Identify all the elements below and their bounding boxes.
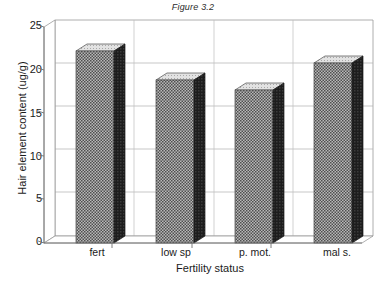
x-tick-p-mot: p. mot. [226, 246, 284, 258]
y-axis-ticks [38, 25, 44, 243]
bar-fert[interactable] [76, 44, 125, 243]
left-depth-wall [44, 20, 55, 243]
x-axis-title: Fertility status [45, 262, 375, 274]
x-tick-low-sp: low sp [148, 246, 204, 258]
plot-area [0, 0, 386, 282]
bar-p-mot[interactable] [235, 83, 284, 243]
bar-mal-s[interactable] [314, 56, 363, 243]
x-tick-fert: fert [72, 246, 122, 258]
bar-low-sp[interactable] [156, 73, 205, 243]
x-tick-mal-s: mal s. [308, 246, 366, 258]
figure-container: Figure 3.2 Hair element content (ug/g) 2… [0, 0, 386, 282]
